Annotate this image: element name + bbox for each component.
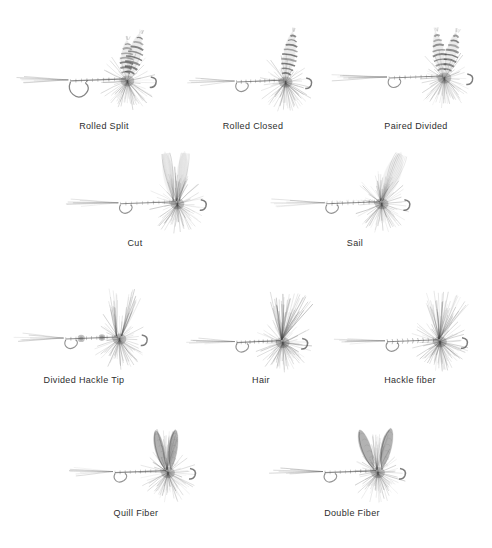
fly-illustration-paired-divided [330,16,486,116]
fly-caption-paired-divided: Paired Divided [340,121,492,132]
fly-caption-double-fiber: Double Fiber [290,508,414,519]
fly-caption-sail: Sail [300,238,410,249]
fly-caption-cut: Cut [80,238,190,249]
fly-figure-quill-fiber [58,418,208,506]
fly-illustration-hair [186,288,318,376]
fly-caption-hackle-fiber: Hackle fiber [334,375,486,386]
fly-caption-rolled-closed: Rolled Closed [178,121,328,132]
fly-figure-hair [186,288,318,376]
fly-figure-hackle-fiber [330,286,480,376]
fly-figure-divided-hackle-tip [8,282,160,374]
fly-illustration-cut [60,148,220,238]
fly-figure-rolled-closed [183,25,323,117]
fly-caption-quill-fiber: Quill Fiber [76,508,196,519]
fly-caption-divided-hackle-tip: Divided Hackle Tip [6,375,162,386]
fly-figure-double-fiber [268,418,418,506]
fly-figure-cut [60,148,220,238]
fly-figure-rolled-split [10,22,170,117]
fly-illustration-rolled-closed [183,25,323,117]
fly-figure-paired-divided [330,16,486,116]
fly-illustration-rolled-split [10,22,170,117]
fly-caption-rolled-split: Rolled Split [0,121,208,132]
fly-illustration-divided-hackle-tip [8,282,160,374]
fly-illustration-sail [268,148,423,238]
illustration-plate: Rolled SplitRolled ClosedPaired DividedC… [0,0,492,548]
fly-caption-hair: Hair [206,375,316,386]
fly-illustration-hackle-fiber [330,286,480,376]
fly-illustration-double-fiber [268,418,418,506]
fly-illustration-quill-fiber [58,418,208,506]
fly-figure-sail [268,148,423,238]
